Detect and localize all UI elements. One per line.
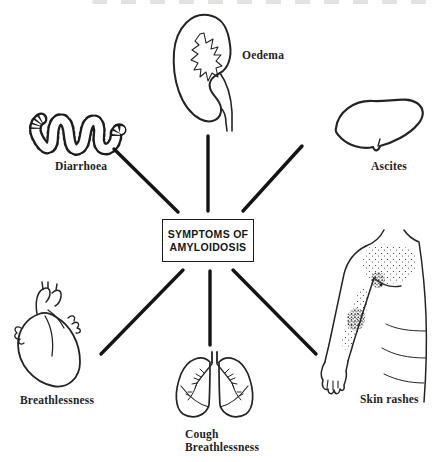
center-title-line2: AMYLOIDOSIS xyxy=(170,241,247,254)
amyloidosis-diagram: SYMPTOMS OF AMYLOIDOSIS xyxy=(0,0,436,462)
connector-skin-rashes xyxy=(233,270,316,354)
connector-breathlessness xyxy=(101,270,183,354)
center-title-box: SYMPTOMS OF AMYLOIDOSIS xyxy=(162,219,254,262)
connector-ascites xyxy=(243,146,302,211)
connector-diarrhoea xyxy=(114,149,178,212)
center-title-line1: SYMPTOMS OF xyxy=(168,228,249,241)
